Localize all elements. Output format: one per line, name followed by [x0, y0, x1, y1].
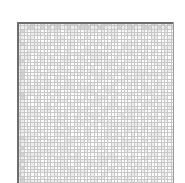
grid-cell: [171, 180, 174, 183]
grid-cell-matrix: [17, 22, 174, 183]
figure-canvas: [0, 0, 185, 183]
grid-plot-area: [17, 22, 174, 183]
